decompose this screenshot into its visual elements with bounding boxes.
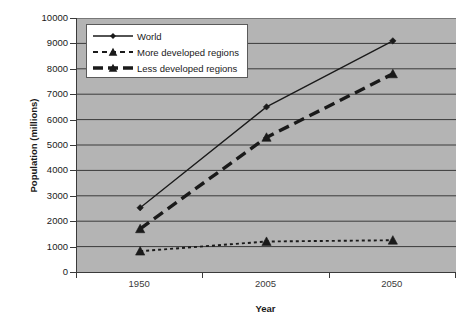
y-axis-tick-label: 1000 xyxy=(4,242,68,252)
x-axis-tick-label: 1950 xyxy=(99,278,179,289)
legend-label-0: World xyxy=(135,31,162,42)
y-axis-tick-label: 4000 xyxy=(4,165,68,175)
legend-label-2: Less developed regions xyxy=(135,63,237,74)
y-axis-tick-label: 2000 xyxy=(4,216,68,226)
legend-sample-icon xyxy=(91,61,135,75)
y-axis-tick-mark xyxy=(70,18,76,19)
x-axis-title: Year xyxy=(76,303,455,314)
data-point-marker xyxy=(388,236,397,245)
data-point-marker xyxy=(388,69,397,78)
y-axis-tick-label: 10000 xyxy=(4,13,68,23)
x-axis-tick-mark xyxy=(329,272,330,278)
legend-item-0: World xyxy=(91,28,243,44)
y-axis-tick-label: 9000 xyxy=(4,38,68,48)
y-axis-tick-mark xyxy=(70,120,76,121)
x-axis-tick-label: 2005 xyxy=(226,278,306,289)
y-axis-tick-mark xyxy=(70,94,76,95)
y-axis-tick-mark xyxy=(70,170,76,171)
y-axis-tick-mark xyxy=(70,247,76,248)
data-point-marker xyxy=(262,237,271,246)
y-axis-tick-mark xyxy=(70,43,76,44)
y-axis-tick-mark xyxy=(70,221,76,222)
series-line-2 xyxy=(140,74,393,229)
x-axis-tick-mark xyxy=(202,272,203,278)
legend-sample-0 xyxy=(91,29,135,43)
chart-legend: WorldMore developed regionsLess develope… xyxy=(86,24,248,78)
x-axis-tick-mark xyxy=(76,272,77,278)
y-axis-tick-label: 8000 xyxy=(4,64,68,74)
legend-item-1: More developed regions xyxy=(91,44,243,60)
y-axis-tick-label: 6000 xyxy=(4,115,68,125)
y-axis-tick-labels: 1000090008000700060005000400030002000100… xyxy=(0,0,68,327)
y-axis-tick-mark xyxy=(70,145,76,146)
legend-sample-icon xyxy=(91,29,135,43)
population-line-chart: Population (millions) 100009000800070006… xyxy=(0,0,476,327)
y-axis-tick-mark xyxy=(70,196,76,197)
data-point-marker xyxy=(136,247,145,256)
y-axis-tick-label: 7000 xyxy=(4,89,68,99)
y-axis-tick-mark xyxy=(70,69,76,70)
legend-sample-icon xyxy=(91,45,135,59)
x-axis-tick-mark xyxy=(455,272,456,278)
legend-sample-2 xyxy=(91,61,135,75)
legend-item-2: Less developed regions xyxy=(91,60,243,76)
x-axis-tick-label: 2050 xyxy=(352,278,432,289)
legend-sample-1 xyxy=(91,45,135,59)
y-axis-tick-label: 0 xyxy=(4,267,68,277)
y-axis-tick-label: 5000 xyxy=(4,140,68,150)
y-axis-tick-label: 3000 xyxy=(4,191,68,201)
legend-label-1: More developed regions xyxy=(135,47,239,58)
